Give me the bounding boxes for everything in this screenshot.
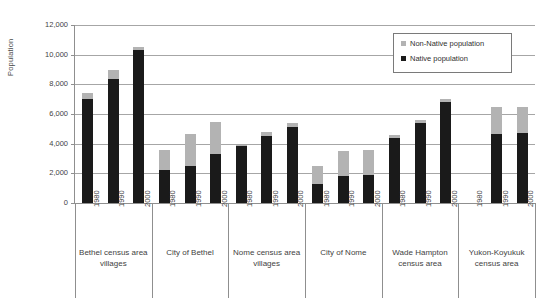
x-axis-group-label: Nome census areavillages <box>228 247 305 269</box>
group-label-line: villages <box>75 258 152 269</box>
x-tick-label-year: 2000 <box>296 190 305 207</box>
x-tick-label-year: 2000 <box>526 190 535 207</box>
x-axis: 198019902000Bethel census areavillages19… <box>75 203 535 306</box>
group-label-line: City of Bethel <box>152 247 229 258</box>
y-axis-tick-labels: 12,00010,0008,0006,0004,0002,0000 <box>22 0 68 306</box>
group-label-line: Wade Hampton <box>382 247 459 258</box>
x-tick-label-year: 1990 <box>194 190 203 207</box>
x-tick-label-year: 1980 <box>245 190 254 207</box>
legend-swatch-icon <box>401 41 406 46</box>
x-tick-label-year: 1990 <box>117 190 126 207</box>
group-label-line: villages <box>228 258 305 269</box>
group-separator <box>228 203 229 298</box>
y-tick-label: 6,000 <box>24 110 68 118</box>
y-tick-label: 8,000 <box>24 80 68 88</box>
legend-item-non-native: Non-Native population <box>401 39 505 48</box>
bar-segment-non-native <box>210 122 221 154</box>
bar-segment-non-native <box>312 166 323 184</box>
x-axis-group-label: Wade Hamptoncensus area <box>382 247 459 269</box>
bar-yukon-koyukuk-1990 <box>491 107 502 203</box>
x-tick-label-year: 1990 <box>271 190 280 207</box>
bar-segment-non-native <box>185 134 196 166</box>
x-tick-label-year: 1990 <box>501 190 510 207</box>
x-tick-label-year: 1980 <box>398 190 407 207</box>
x-tick-label-year: 1980 <box>92 190 101 207</box>
bar-bethel-census-area-1980 <box>82 93 93 203</box>
group-label-line: Yukon-Koyukuk <box>458 247 535 258</box>
group-label-line: Bethel census area <box>75 247 152 258</box>
x-tick-label-year: 2000 <box>220 190 229 207</box>
group-separator <box>305 203 306 298</box>
x-tick-label-year: 1990 <box>347 190 356 207</box>
group-separator <box>458 203 459 298</box>
legend-item-native: Native population <box>401 54 505 63</box>
bar-segment-non-native <box>108 70 119 79</box>
y-tick-label: 2,000 <box>24 169 68 177</box>
group-label-line: Nome census area <box>228 247 305 258</box>
bar-yukon-koyukuk-2000 <box>517 107 528 203</box>
bar-segment-non-native <box>517 107 528 134</box>
x-tick-label-year: 2000 <box>373 190 382 207</box>
group-separator <box>535 203 536 298</box>
bar-segment-native <box>440 102 451 203</box>
x-axis-group-label: Bethel census areavillages <box>75 247 152 269</box>
x-tick-label-year: 1980 <box>322 190 331 207</box>
legend-label-native: Native population <box>410 54 468 63</box>
x-tick-label-year: 2000 <box>450 190 459 207</box>
group-label-line: City of Nome <box>305 247 382 258</box>
bar-segment-native <box>108 79 119 203</box>
y-tick-label: 10,000 <box>24 51 68 59</box>
bar-segment-native <box>82 99 93 203</box>
x-tick-label-year: 2000 <box>143 190 152 207</box>
x-axis-group-label: Yukon-Koyukukcensus area <box>458 247 535 269</box>
x-tick-label-year: 1980 <box>168 190 177 207</box>
bar-segment-native <box>133 50 144 203</box>
bar-segment-non-native <box>363 150 374 174</box>
group-label-line: census area <box>458 258 535 269</box>
y-tick-label: 12,000 <box>24 21 68 29</box>
x-axis-group-label: City of Nome <box>305 247 382 258</box>
bar-segment-non-native <box>338 151 349 176</box>
y-tick-label: 0 <box>24 199 68 207</box>
y-tick-label: 4,000 <box>24 140 68 148</box>
y-axis-title: Population <box>6 0 15 76</box>
x-tick-label-year: 1980 <box>475 190 484 207</box>
legend-swatch-icon <box>401 56 406 61</box>
group-separator <box>75 203 76 298</box>
bar-bethel-census-area-2000 <box>133 47 144 203</box>
group-label-line: census area <box>382 258 459 269</box>
x-axis-group-label: City of Bethel <box>152 247 229 258</box>
legend-label-non-native: Non-Native population <box>410 39 484 48</box>
bar-bethel-census-area-1990 <box>108 70 119 203</box>
group-separator <box>382 203 383 298</box>
x-tick-label-year: 1990 <box>424 190 433 207</box>
group-separator <box>152 203 153 298</box>
bar-segment-non-native <box>491 107 502 134</box>
bar-segment-non-native <box>159 150 170 171</box>
population-bar-chart: Population 12,00010,0008,0006,0004,0002,… <box>0 0 541 306</box>
bar-wade-hampton-2000 <box>440 99 451 203</box>
chart-legend: Non-Native population Native population <box>393 33 512 73</box>
